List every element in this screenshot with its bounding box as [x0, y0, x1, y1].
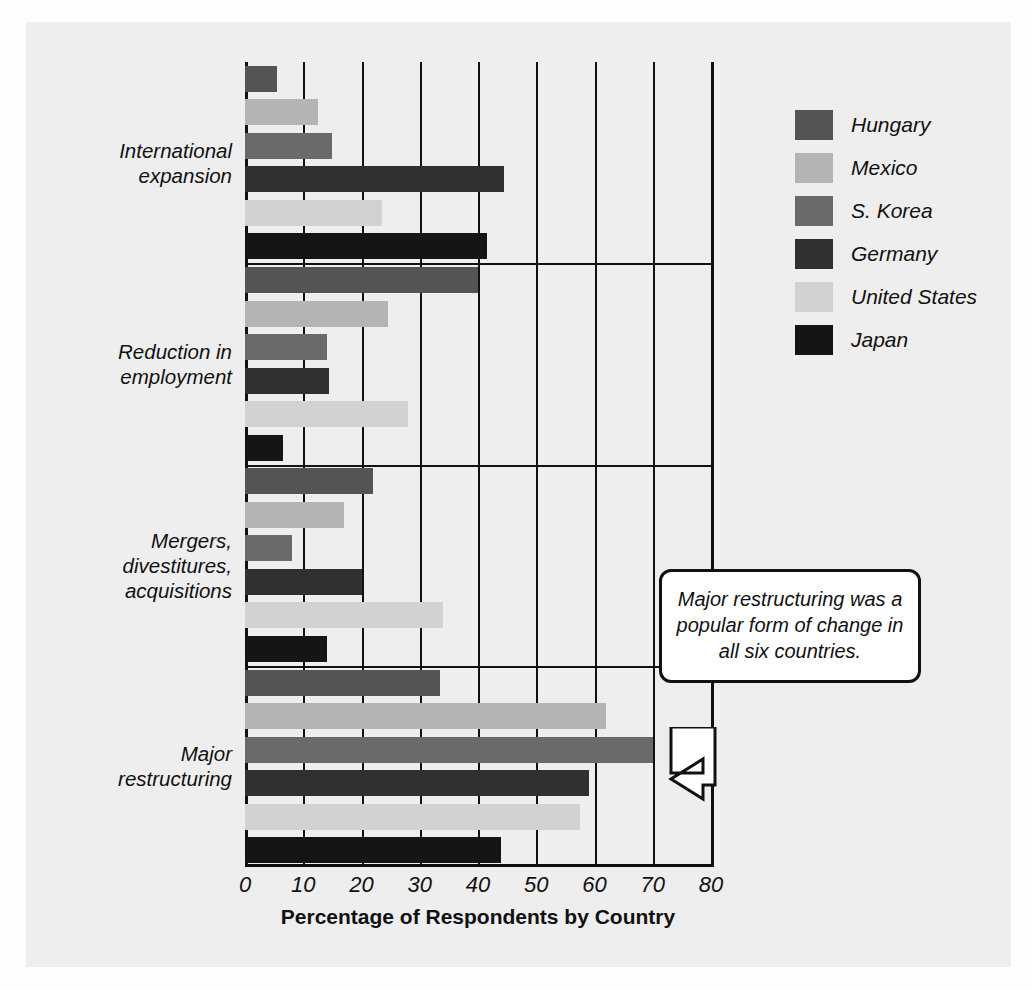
x-tick-label: 10 — [291, 872, 315, 898]
bar-group — [245, 263, 711, 464]
bar-row — [245, 431, 711, 465]
category-label: Internationalexpansion — [60, 138, 232, 188]
legend-item: Germany — [795, 232, 977, 275]
bar — [245, 200, 382, 226]
legend-swatch-icon — [795, 110, 833, 140]
bar — [245, 737, 653, 763]
bar-row — [245, 96, 711, 130]
bar-row — [245, 532, 711, 566]
x-tick-label: 20 — [349, 872, 373, 898]
bar-row — [245, 397, 711, 431]
bar-row — [245, 699, 711, 733]
bar — [245, 133, 332, 159]
bar — [245, 569, 362, 595]
bar-row — [245, 666, 711, 700]
bar — [245, 334, 327, 360]
category-label: Mergers,divestitures,acquisitions — [60, 528, 232, 603]
bar-row — [245, 800, 711, 834]
x-tick-label: 50 — [524, 872, 548, 898]
category-label-line: Reduction in — [60, 339, 232, 364]
bar-row — [245, 330, 711, 364]
category-label-line: divestitures, — [60, 553, 232, 578]
bar-group — [245, 465, 711, 666]
plot-area — [245, 62, 711, 867]
bar — [245, 66, 277, 92]
bar-group — [245, 62, 711, 263]
bar — [245, 602, 443, 628]
category-label: Majorrestructuring — [60, 741, 232, 791]
category-label-line: employment — [60, 364, 232, 389]
bar-row — [245, 833, 711, 867]
bar — [245, 435, 283, 461]
x-tick-label: 60 — [582, 872, 606, 898]
legend-label: S. Korea — [851, 199, 933, 223]
bar — [245, 502, 344, 528]
bar-row — [245, 766, 711, 800]
legend-swatch-icon — [795, 153, 833, 183]
legend-label: United States — [851, 285, 977, 309]
legend-label: Mexico — [851, 156, 918, 180]
bar-group — [245, 666, 711, 867]
category-label-line: International — [60, 138, 232, 163]
bar-row — [245, 62, 711, 96]
x-axis-title: Percentage of Respondents by Country — [245, 905, 711, 929]
bar-row — [245, 297, 711, 331]
x-tick-label: 70 — [641, 872, 665, 898]
bar — [245, 770, 589, 796]
bar — [245, 233, 487, 259]
bar-row — [245, 465, 711, 499]
bar — [245, 804, 580, 830]
category-label-line: Mergers, — [60, 528, 232, 553]
bar — [245, 267, 478, 293]
bar-row — [245, 733, 711, 767]
legend-label: Japan — [851, 328, 908, 352]
x-tick-label: 0 — [239, 872, 251, 898]
x-tick-label: 40 — [466, 872, 490, 898]
bar — [245, 535, 292, 561]
bar-row — [245, 129, 711, 163]
bar-row — [245, 565, 711, 599]
legend-item: Mexico — [795, 146, 977, 189]
category-label-line: Major — [60, 741, 232, 766]
bar — [245, 837, 501, 863]
bar — [245, 670, 440, 696]
bar-row — [245, 364, 711, 398]
bar — [245, 99, 318, 125]
bar-row — [245, 599, 711, 633]
legend-item: Hungary — [795, 103, 977, 146]
category-label: Reduction inemployment — [60, 339, 232, 389]
category-label-line: expansion — [60, 163, 232, 188]
chart-page: InternationalexpansionReduction inemploy… — [0, 0, 1033, 990]
bar — [245, 468, 373, 494]
bar — [245, 401, 408, 427]
callout-arrow-icon — [663, 727, 811, 803]
legend-item: Japan — [795, 318, 977, 361]
legend-swatch-icon — [795, 239, 833, 269]
bar — [245, 166, 504, 192]
bar — [245, 301, 388, 327]
x-tick-label: 30 — [408, 872, 432, 898]
category-label-group: InternationalexpansionReduction inemploy… — [60, 62, 232, 867]
legend-label: Germany — [851, 242, 937, 266]
legend-swatch-icon — [795, 325, 833, 355]
bar-row — [245, 196, 711, 230]
category-label-line: acquisitions — [60, 578, 232, 603]
legend-item: S. Korea — [795, 189, 977, 232]
bar — [245, 703, 606, 729]
bar-row — [245, 230, 711, 264]
legend: HungaryMexicoS. KoreaGermanyUnited State… — [795, 103, 977, 361]
bar — [245, 368, 329, 394]
legend-swatch-icon — [795, 196, 833, 226]
legend-item: United States — [795, 275, 977, 318]
category-label-line: restructuring — [60, 766, 232, 791]
legend-swatch-icon — [795, 282, 833, 312]
bar-row — [245, 498, 711, 532]
bar-row — [245, 263, 711, 297]
bar-row — [245, 632, 711, 666]
x-tick-label: 80 — [699, 872, 723, 898]
legend-label: Hungary — [851, 113, 930, 137]
bar-row — [245, 163, 711, 197]
x-axis-ticks: 01020304050607080 — [245, 872, 711, 902]
bar — [245, 636, 327, 662]
callout-box: Major restructuring was a popular form o… — [659, 569, 921, 683]
